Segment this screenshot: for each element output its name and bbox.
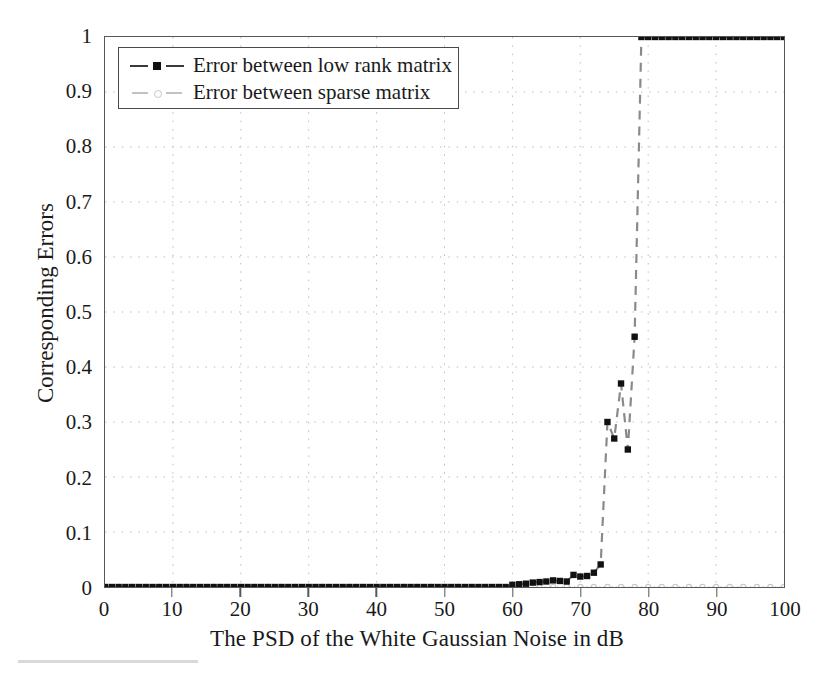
x-tick-label: 50 [434,597,455,622]
legend-entry-low-rank: Error between low rank matrix [119,52,458,79]
y-tick-label: 0.1 [66,520,104,545]
x-tick-label: 40 [366,597,387,622]
x-tick-label: 60 [502,597,523,622]
x-tick-label: 20 [230,597,251,622]
x-tick-mark [580,588,581,597]
y-tick-label: 0.5 [66,300,104,325]
x-tick-mark [239,588,240,597]
y-tick-label: 0.2 [66,465,104,490]
x-tick-label: 80 [638,597,659,622]
x-tick-label: 70 [570,597,591,622]
x-tick-label: 30 [298,597,319,622]
legend-swatch-low-rank-icon [128,56,186,76]
x-tick-label: 100 [769,597,801,622]
chart-figure: Corresponding Errors 00.10.20.30.40.50.6… [0,0,834,675]
x-tick-mark [512,588,513,597]
x-tick-mark [648,588,649,597]
y-tick-label: 0.3 [66,410,104,435]
y-tick-label: 0.4 [66,355,104,380]
y-tick-label: 1 [82,24,105,49]
page-scan-artifact [18,660,198,663]
legend-label-low-rank: Error between low rank matrix [193,55,452,76]
x-tick-mark [171,588,172,597]
data-series-layer [105,37,784,587]
legend-box: Error between low rank matrix Error betw… [118,47,459,109]
y-tick-label: 0.8 [66,134,104,159]
legend-swatch-sparse-icon [128,83,186,103]
y-axis-title: Corresponding Errors [33,153,59,453]
x-tick-label: 90 [706,597,727,622]
plot-area [104,36,785,588]
x-tick-mark [716,588,717,597]
x-tick-label: 10 [162,597,183,622]
legend-label-sparse: Error between sparse matrix [193,82,430,103]
y-tick-label: 0.6 [66,244,104,269]
x-tick-mark [376,588,377,597]
x-tick-label: 0 [99,597,110,622]
x-tick-mark [444,588,445,597]
y-tick-label: 0.7 [66,189,104,214]
x-axis-title: The PSD of the White Gaussian Noise in d… [0,626,834,652]
legend-entry-sparse: Error between sparse matrix [119,79,458,106]
x-tick-mark [308,588,309,597]
y-tick-label: 0.9 [66,79,104,104]
